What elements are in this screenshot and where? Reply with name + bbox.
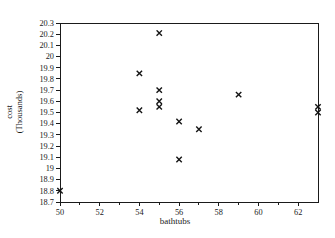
y-tick-label: 19.2 <box>39 142 54 151</box>
x-tick-label: 54 <box>135 208 144 217</box>
data-point-marker <box>157 88 161 92</box>
y-tick-label: 19 <box>46 164 54 173</box>
data-point-marker <box>177 119 181 123</box>
y-tick-label: 19.9 <box>39 64 54 73</box>
x-tick-label: 62 <box>294 208 302 217</box>
data-point-marker <box>157 105 161 109</box>
x-tick-label: 52 <box>96 208 104 217</box>
x-tick-label: 58 <box>215 208 223 217</box>
plot-canvas: 20.320.220.12019.919.819.719.619.519.419… <box>0 0 335 238</box>
x-axis-title: bathtubs <box>160 216 191 226</box>
y-tick-label: 20 <box>46 52 54 61</box>
data-point-marker <box>197 127 201 131</box>
data-point-marker <box>236 92 240 96</box>
y-tick-label: 18.8 <box>39 187 54 196</box>
y-tick-label: 18.7 <box>39 198 54 207</box>
y-axis-title: cost(Thousands) <box>4 91 24 134</box>
y-axis-title-line1: cost <box>4 105 14 119</box>
scatter-chart: 20.320.220.12019.919.819.719.619.519.419… <box>0 0 335 238</box>
data-point-marker <box>137 71 141 75</box>
y-tick-label: 20.2 <box>39 30 54 39</box>
data-point-marker <box>157 99 161 103</box>
data-point-marker <box>137 108 141 112</box>
y-tick-label: 19.4 <box>39 119 54 128</box>
data-point-marker <box>177 157 181 161</box>
y-tick-label: 19.6 <box>39 97 54 106</box>
y-tick-label: 19.3 <box>39 131 54 140</box>
plot-frame <box>60 23 318 202</box>
x-tick-label: 60 <box>254 208 262 217</box>
data-point-marker <box>157 31 161 35</box>
y-tick-label: 19.5 <box>39 108 54 117</box>
y-tick-label: 19.1 <box>39 153 54 162</box>
y-tick-label: 20.3 <box>39 19 54 28</box>
y-axis-title-line2: (Thousands) <box>14 91 24 134</box>
y-tick-label: 19.7 <box>39 86 54 95</box>
y-tick-label: 19.8 <box>39 75 54 84</box>
y-tick-label: 20.1 <box>39 41 54 50</box>
y-tick-label: 18.9 <box>39 175 54 184</box>
x-tick-label: 50 <box>56 208 64 217</box>
